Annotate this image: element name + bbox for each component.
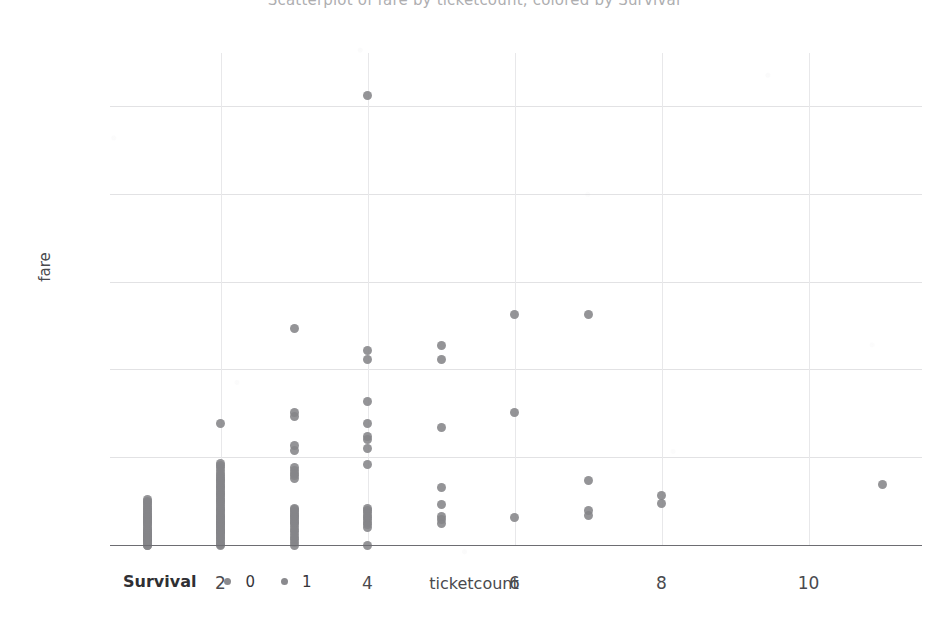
data-point — [363, 460, 372, 469]
data-point — [584, 506, 593, 515]
legend: Survival 01 — [123, 572, 338, 591]
data-point — [290, 504, 299, 513]
legend-swatch-icon — [224, 578, 231, 585]
data-point — [437, 341, 446, 350]
data-point — [143, 495, 152, 504]
gridline-x-10 — [809, 53, 810, 545]
data-point — [510, 513, 519, 522]
data-point — [657, 491, 666, 500]
data-point — [437, 500, 446, 509]
data-point — [363, 504, 372, 513]
data-point — [216, 459, 225, 468]
data-point — [216, 419, 225, 428]
gridline-y-500 — [110, 106, 922, 107]
legend-entry-0[interactable]: 0 — [224, 573, 255, 591]
legend-title: Survival — [123, 572, 196, 591]
gridline-x-8 — [662, 53, 663, 545]
x-tick-label-6: 6 — [485, 573, 545, 593]
y-axis-label: fare — [36, 252, 54, 282]
legend-entry-label: 0 — [245, 573, 255, 591]
gridline-y-100 — [110, 457, 922, 458]
data-point — [510, 408, 519, 417]
data-point — [363, 432, 372, 441]
data-point — [584, 310, 593, 319]
plot-area: 0100200300400500 246810 — [110, 53, 922, 492]
data-point — [290, 408, 299, 417]
data-point — [437, 423, 446, 432]
data-point — [363, 346, 372, 355]
data-point — [510, 310, 519, 319]
legend-entry-1[interactable]: 1 — [281, 573, 312, 591]
data-point — [290, 441, 299, 450]
legend-swatch-icon — [281, 578, 288, 585]
data-point — [363, 444, 372, 453]
x-tick-label-4: 4 — [338, 573, 398, 593]
data-point — [584, 476, 593, 485]
data-point — [363, 91, 372, 100]
x-tick-label-10: 10 — [779, 573, 839, 593]
gridline-y-200 — [110, 369, 922, 370]
legend-entries: 01 — [224, 573, 337, 591]
x-axis-line — [110, 545, 922, 546]
data-point — [290, 324, 299, 333]
data-point — [437, 512, 446, 521]
data-point — [290, 463, 299, 472]
legend-entry-label: 1 — [302, 573, 312, 591]
scatter-chart: Scatterplot of fare by ticketcount, colo… — [0, 0, 948, 627]
gridline-x-6 — [515, 53, 516, 545]
data-point — [657, 499, 666, 508]
chart-title: Scatterplot of fare by ticketcount, colo… — [0, 0, 948, 9]
data-point — [363, 397, 372, 406]
gridline-y-400 — [110, 194, 922, 195]
data-point — [437, 355, 446, 364]
data-point — [878, 480, 887, 489]
data-point — [363, 355, 372, 364]
data-point — [437, 483, 446, 492]
gridline-y-300 — [110, 282, 922, 283]
gridline-x-4 — [368, 53, 369, 545]
data-point — [363, 419, 372, 428]
x-tick-label-8: 8 — [632, 573, 692, 593]
